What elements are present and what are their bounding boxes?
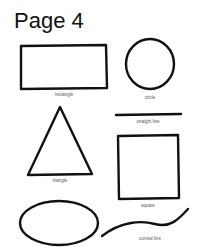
straight-line-label: straight line xyxy=(136,119,159,124)
circle-shape xyxy=(126,39,174,89)
rectangle-shape xyxy=(21,45,107,89)
square-label: square xyxy=(141,203,155,208)
shapes-canvas xyxy=(0,0,200,249)
oval-shape xyxy=(20,201,98,245)
straight-line-shape xyxy=(116,114,181,115)
curved-line-shape xyxy=(102,209,188,236)
triangle-label: triangle xyxy=(53,178,68,183)
curved-line-label: curved line xyxy=(139,236,161,241)
square-shape xyxy=(118,135,179,199)
triangle-shape xyxy=(28,107,92,175)
circle-label: circle xyxy=(145,95,156,100)
rectangle-label: rectangle xyxy=(55,92,74,97)
